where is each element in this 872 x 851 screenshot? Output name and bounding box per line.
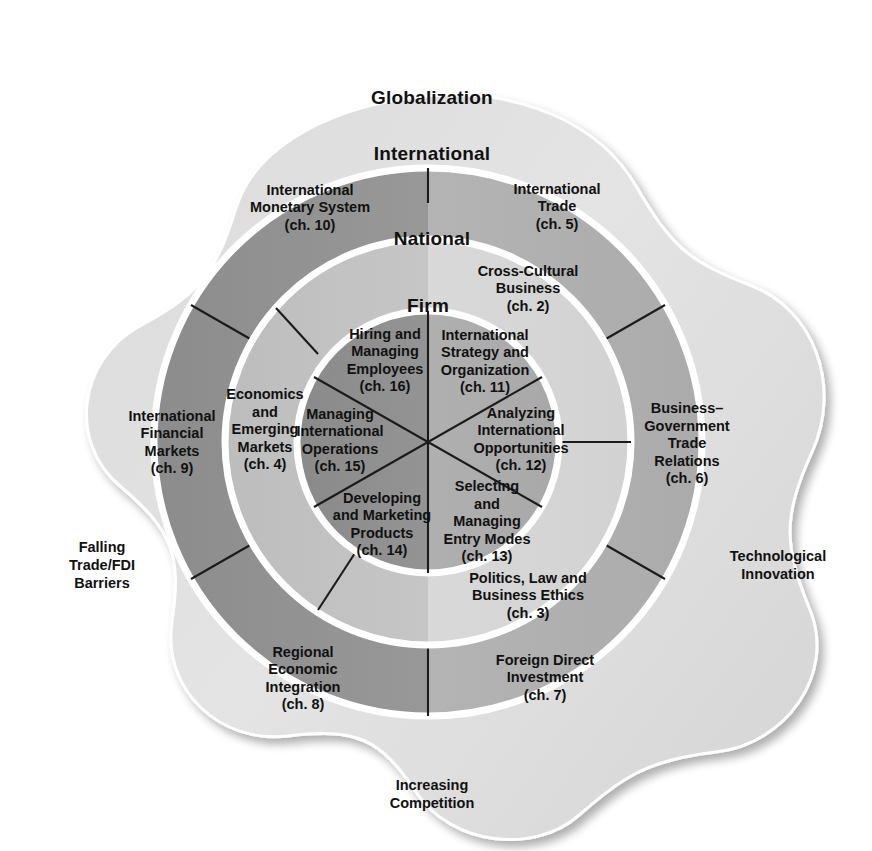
outer-label-falling-trade-fdi-barriers: FallingTrade/FDIBarriers [69,539,135,591]
segment-label-international-financial-markets-line: Markets [145,443,200,459]
segment-label-selecting-and-managing-entry-modes-line: Entry Modes [443,530,530,546]
ring-title-globalization: Globalization [371,87,493,108]
outer-label-falling-trade-fdi-barriers-line: Barriers [74,575,130,591]
segment-label-economics-and-emerging-markets-line: and [252,403,278,419]
segment-label-cross-cultural-business-line: Cross-Cultural [478,262,579,278]
segment-label-selecting-and-managing-entry-modes-line: Managing [453,513,521,529]
segment-label-developing-and-marketing-products-line: Products [351,525,414,541]
segment-label-politics-law-and-business-ethics-line: Politics, Law and [469,569,587,585]
segment-label-hiring-and-managing-employees-line: Managing [351,343,419,359]
segment-label-cross-cultural-business-line: Business [496,280,560,296]
segment-label-managing-international-operations-line: Managing [306,406,374,422]
segment-label-selecting-and-managing-entry-modes-line: (ch. 13) [462,548,513,564]
segment-label-business-government-trade-relations-line: (ch. 6) [666,470,709,486]
segment-label-international-trade-line: International [513,180,600,196]
segment-label-analyzing-international-opportunities-line: Analyzing [487,405,555,421]
ring-title-firm: Firm [407,295,449,316]
segment-label-business-government-trade-relations-line: Government [644,417,730,433]
segment-label-analyzing-international-opportunities-line: (ch. 12) [496,457,547,473]
segment-label-business-government-trade-relations-line: Relations [654,452,719,468]
segment-label-regional-economic-integration-line: Integration [266,679,341,695]
outer-label-falling-trade-fdi-barriers-line: Falling [79,539,126,555]
segment-label-business-government-trade-relations-line: Trade [668,435,707,451]
segment-label-economics-and-emerging-markets-line: (ch. 4) [244,456,287,472]
segment-label-international-monetary-system-line: (ch. 10) [285,216,336,232]
segment-label-international-monetary-system-line: International [266,181,353,197]
segment-label-international-trade-line: (ch. 5) [536,215,579,231]
segment-label-developing-and-marketing-products-line: and Marketing [333,507,431,523]
ring-title-international: International [374,143,491,164]
ring-title-firm-line: Firm [407,295,449,316]
segment-label-economics-and-emerging-markets-line: Emerging [232,421,299,437]
segment-label-economics-and-emerging-markets-line: Markets [238,438,293,454]
ring-title-national: National [394,228,471,249]
segment-label-politics-law-and-business-ethics-line: Business Ethics [472,587,584,603]
outer-label-falling-trade-fdi-barriers-line: Trade/FDI [69,557,135,573]
segment-label-international-strategy-and-organization-line: International [441,327,528,343]
segment-label-hiring-and-managing-employees-line: Employees [347,361,424,377]
segment-label-managing-international-operations-line: International [296,423,383,439]
segment-label-analyzing-international-opportunities-line: International [477,422,564,438]
segment-label-business-government-trade-relations-line: Business– [651,400,724,416]
segment-label-selecting-and-managing-entry-modes-line: and [474,495,500,511]
segment-label-foreign-direct-investment-line: Investment [507,669,584,685]
segment-label-regional-economic-integration-line: (ch. 8) [282,696,325,712]
outer-label-technological-innovation-line: Innovation [741,566,814,582]
segment-label-foreign-direct-investment-line: (ch. 7) [524,686,567,702]
ring-title-national-line: National [394,228,471,249]
segment-label-international-financial-markets-line: Financial [141,425,204,441]
segment-label-international-financial-markets-line: (ch. 9) [151,460,194,476]
segment-label-politics-law-and-business-ethics-line: (ch. 3) [507,604,550,620]
segment-label-hiring-and-managing-employees-line: (ch. 16) [360,378,411,394]
segment-label-cross-cultural-business-line: (ch. 2) [507,297,550,313]
ring-title-globalization-line: Globalization [371,87,493,108]
segment-label-hiring-and-managing-employees-line: Hiring and [349,326,421,342]
diagram-canvas: GlobalizationInternationalNationalFirmFa… [0,0,872,851]
segment-label-analyzing-international-opportunities-line: Opportunities [473,440,568,456]
segment-label-international-trade-line: Trade [538,198,577,214]
segment-label-selecting-and-managing-entry-modes-line: Selecting [455,478,519,494]
segment-label-regional-economic-integration-line: Regional [272,644,333,660]
segment-label-economics-and-emerging-markets-line: Economics [226,386,303,402]
outer-label-technological-innovation-line: Technological [730,548,826,564]
segment-label-developing-and-marketing-products-line: (ch. 14) [357,542,408,558]
segment-label-international-strategy-and-organization-line: (ch. 11) [460,379,510,395]
segment-label-regional-economic-integration-line: Economic [268,661,337,677]
concentric-model-svg: GlobalizationInternationalNationalFirmFa… [0,0,872,851]
segment-label-managing-international-operations-line: (ch. 15) [315,458,366,474]
segment-label-managing-international-operations-line: Operations [302,441,379,457]
outer-label-increasing-competition-line: Increasing [396,777,469,793]
segment-label-developing-and-marketing-products-line: Developing [343,490,421,506]
segment-label-international-strategy-and-organization-line: Strategy and [441,344,529,360]
segment-label-foreign-direct-investment-line: Foreign Direct [496,651,594,667]
segment-label-international-financial-markets-line: International [128,408,215,424]
segment-label-international-strategy-and-organization-line: Organization [441,362,530,378]
segment-label-international-monetary-system-line: Monetary System [250,199,370,215]
ring-title-international-line: International [374,143,491,164]
outer-label-increasing-competition-line: Competition [390,795,475,811]
